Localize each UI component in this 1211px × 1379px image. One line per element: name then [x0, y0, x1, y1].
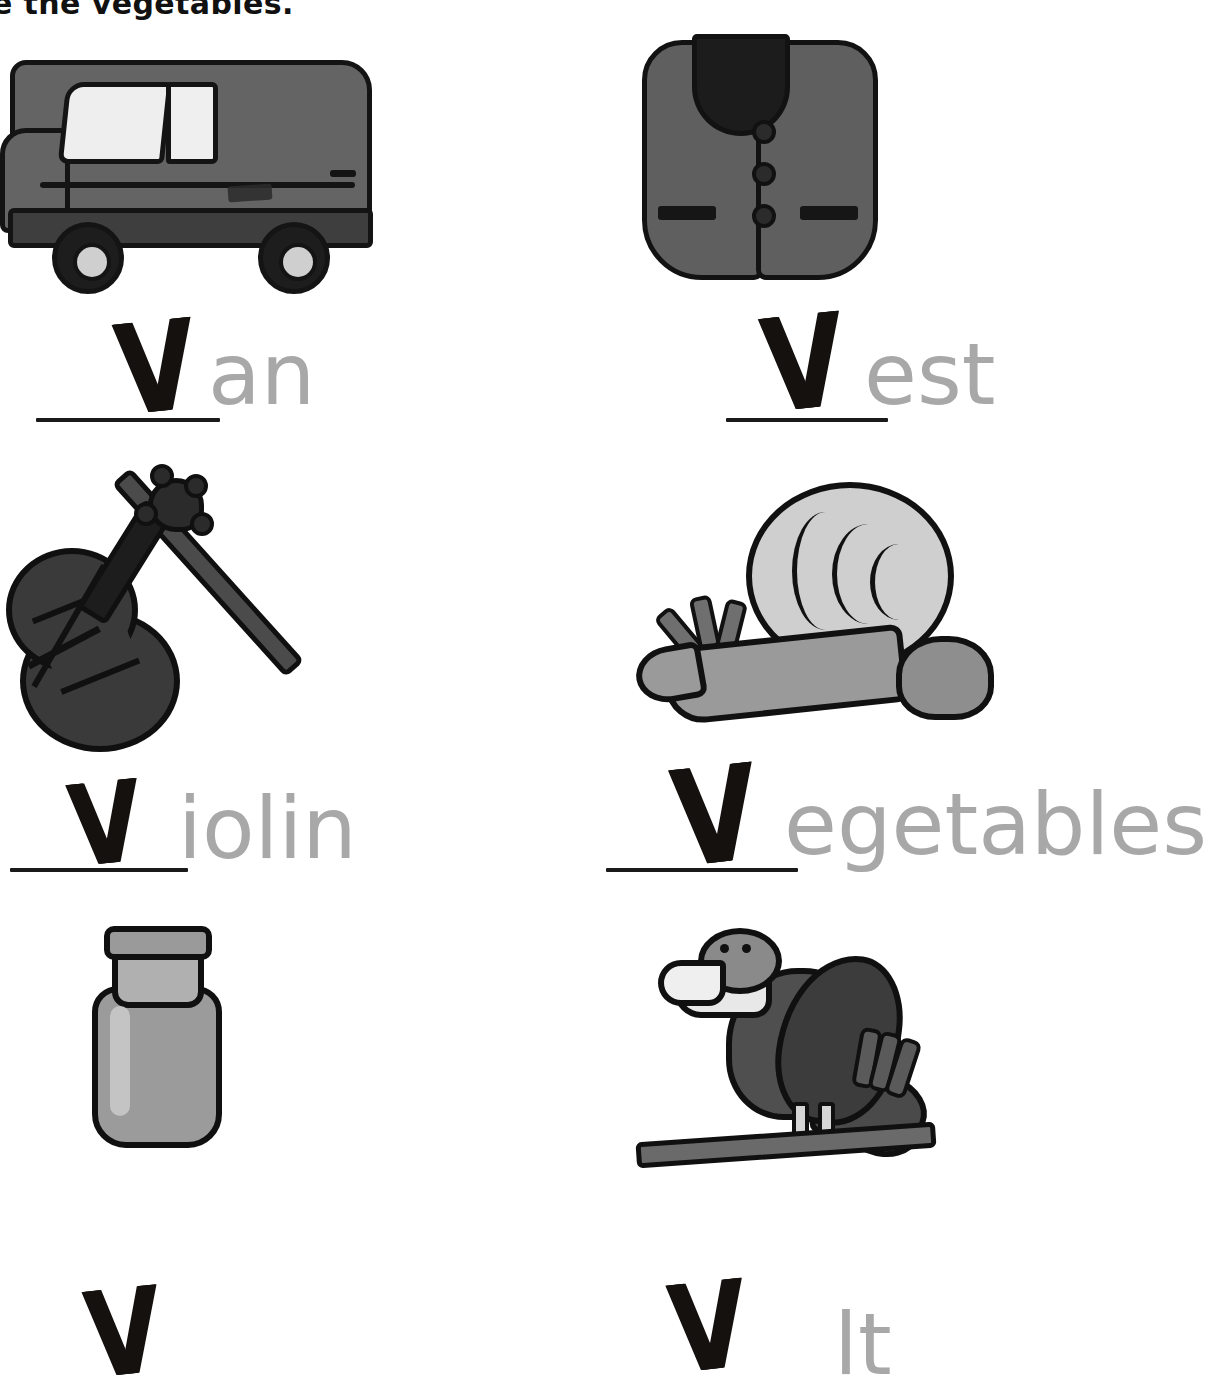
violin-word-line: V iolin: [0, 750, 605, 880]
worksheet-item-vulture: V lt: [606, 920, 1211, 1340]
vest-illustration: [606, 10, 1211, 300]
worksheet-item-violin: V iolin: [0, 460, 605, 880]
violin-peg-3: [134, 502, 158, 526]
vest-button-middle: [752, 162, 776, 186]
van-front-wheel: [52, 222, 124, 294]
vegetables-word-line: V egetables: [606, 750, 1211, 880]
van-rear-wheel: [258, 222, 330, 294]
vest-collar: [692, 34, 790, 136]
vest-button-bottom: [752, 204, 776, 228]
violin-traced-letter: V: [64, 765, 146, 884]
vulture-traced-letter: V: [664, 1264, 752, 1379]
vase-word-line: V: [0, 1210, 605, 1340]
van-word-line: V an: [0, 300, 605, 430]
van-illustration: [0, 10, 605, 300]
vest-word-remainder: est: [864, 324, 995, 424]
vase-lip: [104, 926, 212, 960]
vegetables-illustration: [606, 460, 1211, 750]
cabbage-vein-3: [870, 544, 927, 620]
van-body-stripe: [40, 182, 355, 188]
worksheet-item-vegetables: V egetables: [606, 460, 1211, 880]
vulture-beak: [658, 960, 726, 1006]
van-side-window: [166, 82, 218, 164]
violin-peg-2: [184, 474, 208, 498]
violin-peg-4: [190, 512, 214, 536]
vase-illustration: [0, 920, 605, 1210]
vest-left-pocket: [658, 206, 716, 220]
vase-traced-letter: V: [80, 1270, 167, 1379]
worksheet-item-vase: V: [0, 920, 605, 1340]
violin-word-remainder: iolin: [178, 778, 357, 878]
carrot-tip: [632, 641, 709, 708]
vulture-eye-left: [720, 944, 729, 953]
van-logo: [227, 183, 272, 202]
vest-word-line: V est: [606, 300, 1211, 430]
vulture-word-line: V lt: [606, 1210, 1211, 1340]
van-door-handle: [330, 170, 356, 177]
vest-right-pocket: [800, 206, 858, 220]
vest-traced-letter: V: [756, 296, 850, 432]
vegetables-traced-letter: V: [667, 746, 764, 886]
tree-branch: [635, 1122, 936, 1169]
vegetables-word-remainder: egetables: [784, 774, 1207, 874]
vulture-eye-right: [742, 944, 751, 953]
violin-peg-1: [150, 464, 174, 488]
worksheet-item-van: V an: [0, 10, 605, 430]
broccoli: [896, 636, 994, 720]
vase-highlight: [110, 1006, 130, 1116]
vest-button-top: [752, 120, 776, 144]
vulture-illustration: [606, 920, 1211, 1210]
van-windshield: [58, 82, 173, 164]
van-traced-letter: V: [110, 302, 201, 434]
vulture-word-remainder: lt: [834, 1294, 892, 1379]
violin-illustration: [0, 460, 605, 750]
worksheet-item-vest: V est: [606, 10, 1211, 430]
van-word-remainder: an: [208, 324, 315, 424]
